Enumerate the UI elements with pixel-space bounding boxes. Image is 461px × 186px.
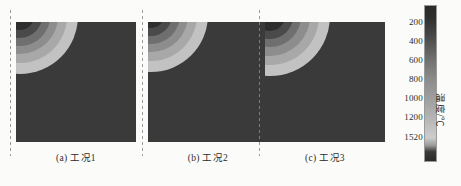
colorbar-tick-1000: 1000 [404, 93, 423, 103]
colorbar-tick-800: 800 [409, 74, 423, 84]
colorbar-tick-400: 400 [409, 36, 423, 46]
panel-c-axis-stub [259, 10, 260, 156]
figure-container: (a) 工况1 (b) 工况2 (c) 工况3 200 400 600 [0, 0, 461, 186]
panel-c-caption: (c) 工况3 [250, 150, 400, 164]
panel-c-plot-area [265, 22, 385, 142]
panel-a-axis-stub [10, 10, 11, 156]
panel-a-caption: (a) 工况1 [1, 150, 151, 164]
colorbar-axis-label: 温度/℃ [434, 93, 448, 128]
contour-panel-a [16, 22, 136, 142]
contour-panel-c [265, 22, 385, 142]
panel-b-axis-stub [142, 10, 143, 156]
contour-panel-b [148, 22, 268, 142]
colorbar-tick-1520: 1520 [404, 132, 423, 142]
colorbar-tick-1200: 1200 [404, 112, 423, 122]
panel-b-plot-area [148, 22, 268, 142]
colorbar-gradient [424, 5, 437, 162]
colorbar-group: 200 400 600 800 1000 1200 1520 温度/℃ [396, 0, 461, 186]
colorbar-tick-200: 200 [409, 17, 423, 27]
colorbar-tick-600: 600 [409, 55, 423, 65]
panel-a-plot-area [16, 22, 136, 142]
